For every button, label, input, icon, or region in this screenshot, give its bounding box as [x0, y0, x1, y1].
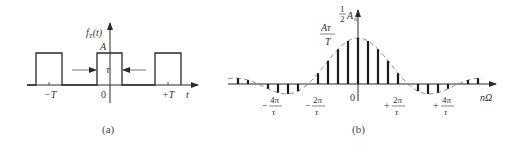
svg-text:2: 2 [340, 14, 345, 24]
panel-b: 1 2 A n Aτ T 0 − 4π τ − 2π τ [228, 4, 496, 136]
tick-plus-T: +T [162, 89, 176, 100]
svg-text:n: n [354, 15, 358, 23]
svg-text:τ: τ [395, 107, 399, 117]
svg-text:2π: 2π [393, 95, 403, 105]
peak-label: Aτ T [320, 22, 335, 47]
sinc-envelope [228, 38, 482, 94]
svg-text:τ: τ [444, 107, 448, 117]
tick-minus-2pi-tau: − 2π τ [305, 95, 325, 117]
amplitude-label: A [99, 41, 107, 52]
svg-text:+: + [433, 100, 439, 111]
ylabel-b: 1 2 A n [339, 4, 358, 24]
caption-b: (b) [352, 123, 365, 136]
svg-text:2π: 2π [313, 95, 323, 105]
svg-text:A: A [346, 10, 354, 21]
pulse-train [27, 53, 181, 85]
tick-plus-2pi-tau: + 2π τ [384, 95, 405, 117]
ylabel-a: fT(t) [86, 27, 103, 40]
panel-a: fT(t) A τ −T 0 +T t (a) [27, 23, 198, 136]
width-label: τ [106, 64, 110, 75]
tick-minus-4pi-tau: − 4π τ [262, 95, 282, 117]
svg-text:4π: 4π [270, 95, 280, 105]
svg-text:+: + [384, 100, 390, 111]
caption-a: (a) [102, 123, 115, 136]
tick-minus-T: −T [44, 89, 58, 100]
tick-zero: 0 [101, 89, 106, 100]
svg-text:T: T [325, 36, 332, 47]
tick-plus-4pi-tau: + 4π τ [433, 95, 454, 117]
tick-zero-b: 0 [350, 92, 355, 103]
xlabel-nomega: nΩ [480, 92, 492, 103]
svg-text:τ: τ [272, 107, 276, 117]
figure: fT(t) A τ −T 0 +T t (a) 1 2 A n Aτ T [0, 0, 518, 152]
xlabel-t: t [186, 89, 189, 100]
svg-text:τ: τ [315, 107, 319, 117]
svg-text:1: 1 [340, 4, 345, 14]
svg-text:Aτ: Aτ [320, 22, 331, 33]
svg-text:4π: 4π [442, 95, 452, 105]
svg-text:−: − [262, 100, 268, 111]
svg-text:−: − [305, 100, 311, 111]
